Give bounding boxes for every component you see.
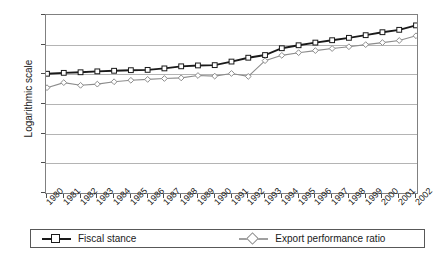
data-point-marker [380, 40, 386, 46]
data-point-marker [312, 48, 318, 54]
data-point-marker [212, 63, 217, 68]
legend-label: Export performance ratio [275, 233, 385, 244]
data-point-marker [279, 46, 284, 51]
chart-container: Logarithmic scale 0123456 19801981198219… [0, 0, 441, 259]
data-point-marker [329, 46, 335, 52]
chart-legend: Fiscal stance Export performance ratio [30, 229, 425, 248]
legend-label: Fiscal stance [78, 233, 136, 244]
data-point-marker [212, 73, 218, 79]
data-point-marker [296, 43, 301, 48]
data-point-marker [413, 33, 417, 39]
data-point-marker [61, 70, 66, 75]
legend-entry-export-performance-ratio: Export performance ratio [239, 233, 385, 244]
data-point-marker [61, 80, 67, 86]
data-point-marker [145, 76, 151, 82]
data-point-marker [414, 23, 417, 28]
legend-entry-fiscal-stance: Fiscal stance [42, 233, 136, 244]
data-point-marker [397, 27, 402, 32]
series-line [47, 25, 416, 73]
legend-key-diamond-marker [239, 234, 268, 244]
data-point-marker [78, 70, 83, 75]
series-fiscal-stance [46, 23, 417, 76]
data-point-marker [279, 52, 285, 58]
data-point-marker [347, 35, 352, 40]
data-point-marker [78, 82, 84, 88]
data-point-marker [128, 77, 134, 83]
data-point-marker [195, 73, 201, 79]
data-point-marker [162, 66, 167, 71]
y-axis-title: Logarithmic scale [23, 24, 34, 174]
data-point-marker [330, 38, 335, 43]
data-point-marker [46, 85, 50, 91]
series-layer [46, 15, 417, 193]
data-point-marker [179, 64, 184, 69]
data-point-marker [296, 50, 302, 56]
data-point-marker [128, 68, 133, 73]
data-point-marker [112, 68, 117, 73]
data-point-marker [380, 30, 385, 35]
data-point-marker [46, 71, 49, 76]
plot-area [45, 14, 418, 194]
data-point-marker [178, 75, 184, 81]
data-point-marker [263, 53, 268, 58]
data-point-marker [95, 69, 100, 74]
data-point-marker [229, 71, 235, 77]
data-point-marker [346, 44, 352, 50]
data-point-marker [111, 79, 117, 85]
data-point-marker [396, 38, 402, 44]
data-point-marker [229, 59, 234, 64]
data-point-marker [246, 55, 251, 60]
data-point-marker [196, 63, 201, 68]
data-point-marker [363, 42, 369, 48]
data-point-marker [313, 40, 318, 45]
data-point-marker [94, 81, 100, 87]
data-point-marker [363, 33, 368, 38]
data-point-marker [162, 76, 168, 82]
legend-key-square-marker [42, 234, 71, 244]
data-point-marker [145, 67, 150, 72]
